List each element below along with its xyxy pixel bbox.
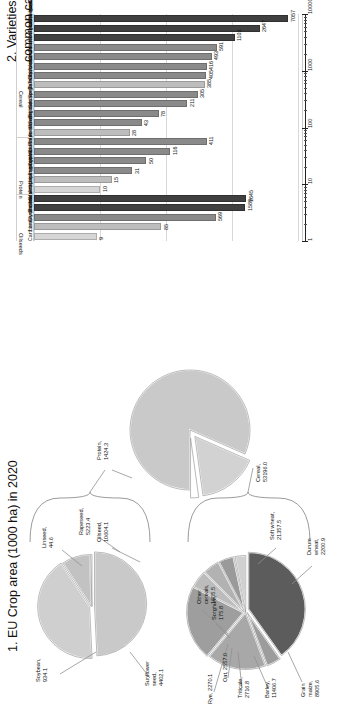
group-separator [16, 137, 34, 138]
axis-minor-tick [304, 224, 307, 225]
axis-minor-tick [304, 31, 307, 32]
bar-triticum-durum [34, 44, 217, 51]
bar-avena-strigosa [34, 129, 130, 136]
label-triticale: Triticale,2716.8 [237, 677, 251, 698]
axis-minor-tick [304, 157, 307, 158]
axis-minor-tick [304, 23, 307, 24]
axis-tick-label: 100 [307, 118, 313, 127]
bar-avena-nuda [34, 119, 142, 126]
bar-hordeum-vulgare-2-rows- [34, 34, 235, 41]
bar-carthamus-tinctorius [34, 233, 97, 240]
axis-minor-tick [304, 133, 307, 134]
bar-value-label: 31 [134, 168, 140, 174]
bar-value-label: 569 [217, 212, 223, 221]
axis-minor-tick [304, 136, 307, 137]
bar-avena-sativa [34, 63, 207, 70]
group-label-cereal: Cereal [18, 91, 24, 107]
axis-minor-tick [304, 190, 307, 191]
axis-minor-tick [304, 83, 307, 84]
label-soybean: Soybean,934.1 [35, 658, 49, 682]
bar-value-label: 43 [143, 120, 149, 126]
bar-lupinus-angustifolius [34, 157, 146, 164]
axis-minor-tick [304, 73, 307, 74]
label-oilseed: Oilseed,10604.1 [96, 521, 110, 542]
connector-line [288, 652, 302, 682]
oilseed-pie-slice [94, 552, 146, 656]
axis-minor-tick [304, 187, 307, 188]
bar-helianthus-annuum [34, 195, 246, 202]
bar-x-triticosecale [34, 81, 205, 88]
connector-line [248, 468, 253, 492]
axis-minor-tick [304, 110, 307, 111]
axis-minor-tick [304, 44, 307, 45]
axis-minor-tick [304, 197, 307, 198]
figure-2-plot-area [33, 14, 303, 241]
bar-arachis-hypogaea [34, 186, 100, 193]
axis-minor-tick [304, 207, 307, 208]
axis-tick [302, 14, 308, 15]
bar-value-label: 305 [199, 89, 205, 98]
figure-sheet: 2. Varieties registered in the EU common… [0, 0, 352, 711]
figure-2-value-axis: 110100100010000 [305, 14, 321, 241]
bar-value-label: 50 [148, 158, 154, 164]
bar-value-label: 85 [163, 224, 169, 230]
bar-value-label: 28 [131, 130, 137, 136]
axis-minor-tick [304, 130, 307, 131]
bar-value-label: 591 [218, 42, 224, 51]
axis-minor-tick [304, 76, 307, 77]
label-cereal: Cereal,53196.0 [255, 462, 269, 482]
label-oat: Oat, 2557.0 [222, 653, 229, 682]
label-rapeseed: Rapeseed,5223.4 [78, 508, 92, 535]
axis-minor-tick [304, 17, 307, 18]
label-durum-wheat: Durumwheat,2200.9 [306, 538, 327, 555]
bar-value-label: 2647 [261, 20, 267, 32]
label-grain-maize: Grainmaize,8905.6 [300, 680, 321, 697]
group-separator [16, 194, 34, 195]
axis-tick-label: 1 [307, 238, 313, 241]
label-soft-wheat: Soft wheat,21357.5 [269, 512, 283, 540]
figure-1-pie-charts: 1. EU Crop area (1000 ha) in 2020 Protei… [0, 352, 352, 711]
connector-line [112, 470, 132, 478]
group-label-oilseeds: Oilseeds [18, 233, 24, 255]
axis-minor-tick [304, 93, 307, 94]
axis-tick-label: 10 [307, 178, 313, 184]
bar-value-label: 405 [208, 70, 214, 79]
axis-minor-tick [304, 37, 307, 38]
bar-value-label: 78 [160, 111, 166, 117]
axis-tick-label: 1000 [307, 58, 313, 70]
label-barley: Barley,11406.7 [264, 678, 278, 698]
axis-minor-tick [304, 100, 307, 101]
axis-tick [302, 241, 308, 242]
axis-minor-tick [304, 145, 307, 146]
label-protein: Protein,1424.3 [96, 441, 110, 460]
bar-value-label: 493 [213, 51, 219, 60]
axis-minor-tick [304, 54, 307, 55]
label-rye: Rye, 2270.1 [207, 674, 214, 704]
axis-minor-tick [304, 27, 307, 28]
group-axis-line [16, 14, 17, 241]
label-other-cereals: Othercereals,1605.5 [196, 584, 217, 604]
axis-minor-tick [304, 201, 307, 202]
bar-value-label: 385 [206, 79, 212, 88]
axis-tick-label: 10000 [307, 0, 313, 14]
axis-minor-tick [304, 214, 307, 215]
bar-brassica-napus [34, 204, 245, 211]
bar-value-label: 116 [172, 146, 178, 155]
bar-sorghum-bicolor [34, 91, 198, 98]
cereal-brace [188, 492, 310, 542]
bar-zea-mays [34, 15, 288, 22]
axis-tick [302, 184, 308, 185]
bar-vicia-faba [34, 148, 170, 155]
bar-value-label: 1103 [236, 30, 242, 42]
bar-value-label: 7057 [290, 10, 296, 22]
bar-triticum-aestivum [34, 25, 260, 32]
bar-value-label: 416 [208, 61, 214, 70]
group-label-protein: Protein [18, 181, 24, 199]
bar-pisum-sativum [34, 138, 207, 145]
bar-value-label: 211 [189, 99, 195, 108]
axis-minor-tick [304, 140, 307, 141]
connector-line [90, 470, 105, 492]
figure-2-bars [34, 14, 302, 241]
bar-secale-cereale [34, 100, 187, 107]
label-linseed: Linseed,44.6 [41, 527, 55, 548]
